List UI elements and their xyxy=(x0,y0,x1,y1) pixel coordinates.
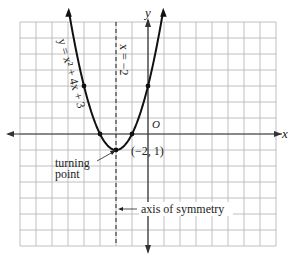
turning-point-pointer xyxy=(97,152,113,161)
y-axis-label: y xyxy=(143,5,151,20)
turning-point-arrowhead xyxy=(110,150,116,155)
curve-point xyxy=(98,132,103,137)
axis-of-symmetry-arrowhead xyxy=(118,207,123,211)
y-axis-arrow-down xyxy=(145,245,151,254)
origin-label: O xyxy=(152,118,160,130)
axis-of-symmetry-equation: x = −2 xyxy=(117,44,131,76)
curve-point xyxy=(130,132,135,137)
curve-point xyxy=(146,84,151,89)
curve-arrow-left xyxy=(65,8,72,17)
axes xyxy=(6,8,282,254)
axis-of-symmetry-text: axis of symmetry xyxy=(141,202,224,216)
curve-label: y = x² + 4x + 3 xyxy=(55,37,88,110)
vertex-label: (−2, 1) xyxy=(131,144,164,158)
x-axis-arrow-right xyxy=(274,131,282,137)
x-axis-label: x xyxy=(281,126,288,141)
parabola-chart: y x O y = x² + 4x + 3 x = −2 (−2, 1) tur… xyxy=(0,0,296,260)
x-axis-arrow-left xyxy=(6,131,14,137)
curve-arrow-right xyxy=(160,8,167,17)
turning-point-label-2: point xyxy=(55,167,80,181)
